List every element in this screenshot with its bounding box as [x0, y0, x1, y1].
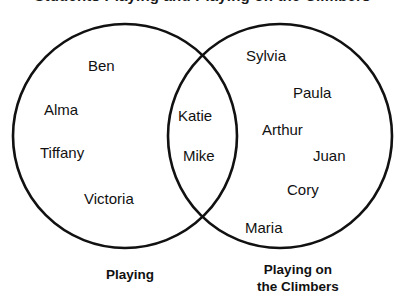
- right-set-label: Playing on the Climbers: [228, 262, 368, 296]
- venn-diagram-page: Students Playing and Playing on the Clim…: [0, 0, 405, 308]
- left-set-circle: [13, 24, 237, 248]
- member-mike: Mike: [183, 148, 215, 163]
- member-alma: Alma: [44, 102, 78, 117]
- member-maria: Maria: [245, 220, 283, 235]
- member-katie: Katie: [178, 108, 212, 123]
- member-tiffany: Tiffany: [40, 145, 84, 160]
- member-arthur: Arthur: [262, 122, 303, 137]
- member-ben: Ben: [88, 58, 115, 73]
- member-cory: Cory: [287, 182, 319, 197]
- left-set-label: Playing: [75, 267, 185, 284]
- member-sylvia: Sylvia: [246, 48, 286, 63]
- member-paula: Paula: [293, 85, 331, 100]
- right-set-label-line2: the Climbers: [257, 279, 339, 294]
- right-set-label-line1: Playing on: [264, 262, 332, 277]
- member-victoria: Victoria: [84, 191, 134, 206]
- member-juan: Juan: [313, 148, 346, 163]
